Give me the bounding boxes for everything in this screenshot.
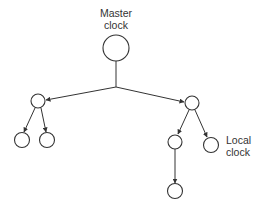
left-leaf-node-a — [15, 133, 30, 148]
local-clock-label-line2: clock — [226, 146, 251, 158]
edge-master-right — [116, 87, 184, 102]
master-clock-node — [103, 35, 129, 61]
master-clock-label-line2: clock — [104, 19, 129, 31]
edge-master-left — [46, 87, 116, 100]
edge-right-rightb — [195, 110, 207, 137]
left-intermediate-node — [31, 94, 45, 108]
master-clock-label-line1: Master — [100, 7, 133, 19]
local-clock-node — [204, 138, 219, 153]
edge-left-lefta — [24, 108, 35, 132]
right-child-node-a — [168, 135, 182, 149]
local-clock-label-line1: Local — [226, 134, 251, 146]
right-leaf-node — [168, 184, 183, 199]
right-intermediate-node — [185, 96, 199, 110]
clock-tree-diagram: Master clock Local clock — [0, 0, 264, 214]
left-leaf-node-b — [40, 133, 55, 148]
edge-right-righta — [178, 110, 189, 134]
edge-left-leftb — [41, 108, 46, 132]
